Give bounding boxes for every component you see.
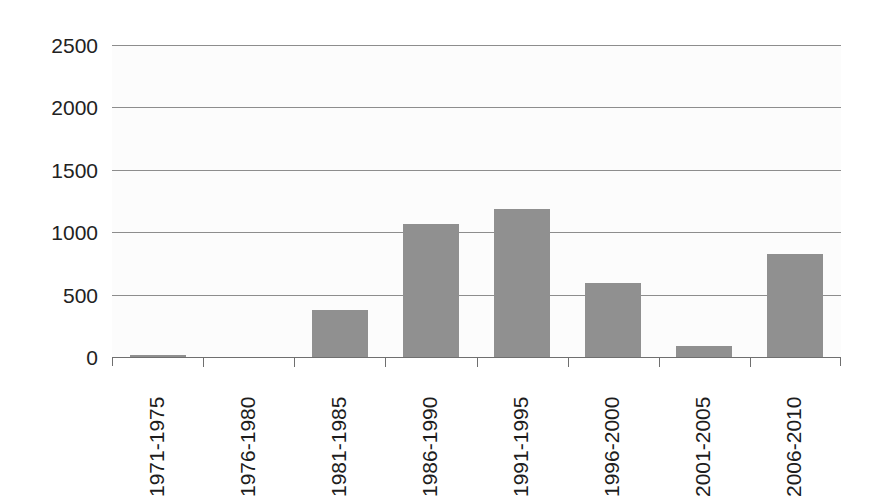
- bar-slot-1971-1975: [112, 45, 203, 357]
- x-label-slot-1986-1990: 1986-1990: [385, 369, 476, 501]
- y-tick-label-1500: 1500: [2, 160, 98, 181]
- y-tick-label-500: 500: [2, 285, 98, 306]
- x-label-slot-1976-1980: 1976-1980: [203, 369, 294, 501]
- x-tick-3: [385, 358, 386, 367]
- bar-slot-2006-2010: [750, 45, 841, 357]
- bar-1996-2000[interactable]: [585, 283, 641, 357]
- bar-1986-1990[interactable]: [403, 224, 459, 357]
- x-axis-labels: 1971-1975 1976-1980 1981-1985 1986-1990 …: [112, 369, 841, 501]
- x-label-slot-1981-1985: 1981-1985: [294, 369, 385, 501]
- x-tick-7: [750, 358, 751, 367]
- bar-slot-2001-2005: [659, 45, 750, 357]
- bar-slot-1981-1985: [294, 45, 385, 357]
- x-label-slot-2006-2010: 2006-2010: [750, 369, 841, 501]
- y-tick-label-0: 0: [2, 347, 98, 368]
- bar-2001-2005[interactable]: [676, 346, 732, 357]
- x-tick-6: [659, 358, 660, 367]
- y-tick-label-1000: 1000: [2, 222, 98, 243]
- x-tick-4: [477, 358, 478, 367]
- x-tick-label-1991-1995: 1991-1995: [509, 397, 533, 497]
- x-tick-label-2001-2005: 2001-2005: [691, 397, 715, 497]
- x-tick-label-1981-1985: 1981-1985: [327, 397, 351, 497]
- x-label-slot-1996-2000: 1996-2000: [568, 369, 659, 501]
- y-axis-labels: 2500 2000 1500 1000 500 0: [0, 0, 98, 501]
- bar-slot-1986-1990: [385, 45, 476, 357]
- bars-layer: [112, 45, 841, 357]
- bar-slot-1991-1995: [477, 45, 568, 357]
- bar-slot-1976-1980: [203, 45, 294, 357]
- bar-2006-2010[interactable]: [767, 254, 823, 357]
- bar-slot-1996-2000: [568, 45, 659, 357]
- x-axis-right-cap: [840, 357, 841, 366]
- x-tick-label-1971-1975: 1971-1975: [145, 397, 169, 497]
- bar-1981-1985[interactable]: [312, 310, 368, 357]
- bar-chart: 2500 2000 1500 1000 500 0 1971-1975 1976…: [0, 0, 884, 501]
- x-tick-1: [203, 358, 204, 367]
- x-tick-label-1976-1980: 1976-1980: [236, 397, 260, 497]
- x-label-slot-1991-1995: 1991-1995: [477, 369, 568, 501]
- x-tick-label-1996-2000: 1996-2000: [600, 397, 624, 497]
- x-label-slot-1971-1975: 1971-1975: [112, 369, 203, 501]
- y-tick-label-2500: 2500: [2, 35, 98, 56]
- x-axis-left-cap: [112, 357, 113, 366]
- x-tick-5: [568, 358, 569, 367]
- y-tick-label-2000: 2000: [2, 97, 98, 118]
- x-tick-2: [294, 358, 295, 367]
- bar-1991-1995[interactable]: [494, 209, 550, 357]
- x-tick-label-1986-1990: 1986-1990: [418, 397, 442, 497]
- x-label-slot-2001-2005: 2001-2005: [659, 369, 750, 501]
- x-tick-label-2006-2010: 2006-2010: [782, 397, 806, 497]
